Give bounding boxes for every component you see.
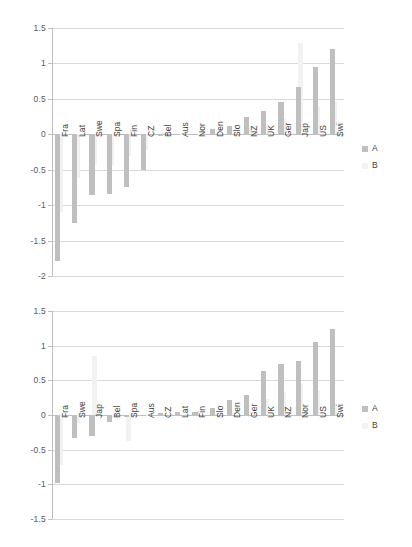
legend-entry-b[interactable]: B (362, 417, 378, 434)
bar-group: Fin (189, 311, 206, 519)
bar-group: Lat (69, 28, 86, 276)
y-axis-labels-top: 1.510.50-0.5-1-1.5-2 (0, 28, 46, 276)
plot-area-bottom: FraSweJapBelSpaAusCZLatFinSloDenGerUKNZN… (52, 311, 344, 519)
legend-label-a: A (372, 404, 378, 413)
y-axis-tick (48, 276, 52, 277)
bar-group: Fin (121, 28, 138, 276)
gridline (52, 276, 344, 277)
y-axis-tick-label: 1.5 (34, 23, 46, 33)
bar-group: Swe (86, 28, 103, 276)
bar-group: Fra (52, 311, 69, 519)
bar-series-a (330, 49, 335, 134)
y-axis-tick-label: -1 (38, 200, 46, 210)
x-axis-category-label: Swi (335, 404, 345, 418)
bar-group: Slo (207, 311, 224, 519)
y-axis-tick (48, 519, 52, 520)
bar-group: Nor (292, 311, 309, 519)
bar-series-a (55, 415, 60, 483)
bar-series-a (141, 134, 146, 170)
legend-swatch-b-icon (362, 423, 368, 429)
bar-group: Spa (121, 311, 138, 519)
bar-group: NZ (275, 311, 292, 519)
y-axis-tick-label: -2 (38, 271, 46, 281)
plot-area-top: FraLatSweSpaFinCZBelAusNorDenSloNZUKGerJ… (52, 28, 344, 276)
legend-label-b: B (372, 161, 378, 170)
bar-series-b (126, 415, 131, 441)
bar-series-a (72, 415, 77, 438)
bar-series-a (55, 134, 60, 261)
y-axis-tick-label: -1.5 (31, 236, 46, 246)
bar-group: Ger (241, 311, 258, 519)
bar-group: Den (224, 311, 241, 519)
legend-entry-a[interactable]: A (362, 400, 378, 417)
y-axis-tick-label: -0.5 (31, 445, 46, 455)
y-axis-tick-label: 1.5 (34, 306, 46, 316)
chart-panel-top: 1.510.50-0.5-1-1.5-2 FraLatSweSpaFinCZBe… (0, 0, 412, 288)
legend-swatch-a-icon (362, 406, 368, 412)
chart-panel-bottom: FraSweJapBelSpaAusCZLatFinSloDenGerUKNZN… (0, 288, 412, 547)
legend-swatch-a-icon (362, 146, 368, 152)
legend-bottom: A B (362, 400, 378, 434)
y-axis-tick-label: -1.5 (31, 514, 46, 524)
bar-group: Fra (52, 28, 69, 276)
bar-group: US (310, 311, 327, 519)
bar-group: Bel (155, 28, 172, 276)
bar-group: Aus (138, 311, 155, 519)
legend-top: A B (362, 140, 378, 174)
bar-group: Aus (172, 28, 189, 276)
bar-series-a (72, 134, 77, 223)
bar-series-a (313, 342, 318, 415)
y-axis-tick-label: 0 (41, 129, 46, 139)
bar-group: NZ (241, 28, 258, 276)
legend-entry-b[interactable]: B (362, 157, 378, 174)
bar-group: Jap (292, 28, 309, 276)
bar-series-a (107, 134, 112, 194)
bar-series-a (89, 415, 94, 436)
y-axis-tick-label: 0.5 (34, 375, 46, 385)
bar-group: Swi (327, 311, 344, 519)
bar-group: UK (258, 311, 275, 519)
legend-swatch-b-icon (362, 163, 368, 169)
y-axis-tick-label: -1 (38, 479, 46, 489)
bar-group: UK (258, 28, 275, 276)
bar-group: CZ (138, 28, 155, 276)
bar-group: Swi (327, 28, 344, 276)
bar-group: Spa (104, 28, 121, 276)
bar-group: Slo (224, 28, 241, 276)
bar-group: Bel (104, 311, 121, 519)
x-axis-category-label: Swi (335, 123, 345, 137)
y-axis-labels-bottom: 1.510.50-0.5-1-1.5 (0, 311, 46, 519)
bar-series-a (330, 329, 335, 415)
bar-series-a (107, 415, 112, 422)
bar-series-a (124, 134, 129, 186)
gridline (52, 519, 344, 520)
y-axis-tick-label: 1 (41, 58, 46, 68)
y-axis-tick-label: 0 (41, 410, 46, 420)
y-axis-tick-label: 1 (41, 341, 46, 351)
bar-group: US (310, 28, 327, 276)
legend-label-a: A (372, 144, 378, 153)
legend-label-b: B (372, 421, 378, 430)
bar-group: Lat (172, 311, 189, 519)
y-axis-tick-label: -0.5 (31, 165, 46, 175)
bar-group: Jap (86, 311, 103, 519)
y-axis-tick-label: 0.5 (34, 94, 46, 104)
legend-entry-a[interactable]: A (362, 140, 378, 157)
bar-group: Nor (189, 28, 206, 276)
bar-group: Den (207, 28, 224, 276)
bar-group: Swe (69, 311, 86, 519)
two-panel-bar-chart-figure: 1.510.50-0.5-1-1.5-2 FraLatSweSpaFinCZBe… (0, 0, 412, 547)
bar-group: CZ (155, 311, 172, 519)
bar-series-a (89, 134, 94, 194)
bar-group: Ger (275, 28, 292, 276)
